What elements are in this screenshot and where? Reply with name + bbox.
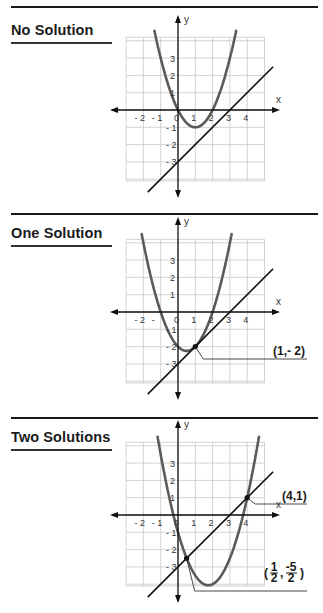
x-tick-label: - 2 (134, 518, 145, 528)
y-tick-label: - 3 (166, 562, 177, 572)
comma: , (280, 566, 283, 580)
paren-close: ) (300, 566, 304, 580)
x-axis-left-arrow-icon (110, 512, 118, 518)
y-tick-label: - 1 (166, 528, 177, 538)
x-axis-right-arrow-icon (272, 512, 280, 518)
y-tick-label: 1 (170, 493, 175, 503)
y-axis-down-arrow-icon (175, 595, 181, 603)
fraction-denominator: 2 (271, 571, 278, 585)
x-tick-label: 3 (226, 518, 231, 528)
x-tick-label: 4 (243, 518, 248, 528)
x-axis-label: x (276, 499, 281, 510)
fraction-denominator: 2 (288, 571, 295, 585)
x-tick-label: - 1 (152, 518, 163, 528)
y-tick-label: - 2 (166, 545, 177, 555)
y-tick-label: 3 (170, 459, 175, 469)
y-axis-label: y (184, 419, 189, 430)
x-tick-label: 1 (191, 518, 196, 528)
paren-open: ( (264, 566, 268, 580)
y-axis-up-arrow-icon (175, 420, 181, 428)
x-tick-label: 0 (174, 518, 179, 528)
solution-label: (12,-52) (264, 560, 304, 585)
x-tick-label: 2 (209, 518, 214, 528)
graph-two-solutions: xy- 2- 101234321- 1- 2- 3(4,1)(12,-52) (0, 0, 323, 613)
solution-label: (4,1) (282, 489, 307, 503)
y-tick-label: 2 (170, 476, 175, 486)
